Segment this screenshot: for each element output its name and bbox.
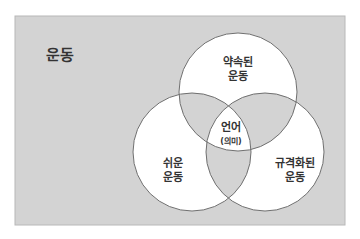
set-easy-label-2: 운동 <box>163 171 183 184</box>
venn-diagram: 운동 약속된 운동 쉬운 운동 규격화된 운동 언어 (의미) <box>0 0 360 239</box>
center-label-1: 언어 <box>221 120 241 134</box>
set-easy-label-1: 쉬운 <box>163 156 183 170</box>
set-promised-label-2: 운동 <box>228 70 248 83</box>
center-label-2: (의미) <box>220 136 241 146</box>
set-regular-label-2: 운동 <box>285 171 305 184</box>
universe-label: 운동 <box>46 46 74 64</box>
set-regular-label-1: 규격화된 <box>275 156 315 170</box>
set-promised-label-1: 약속된 <box>223 55 253 69</box>
